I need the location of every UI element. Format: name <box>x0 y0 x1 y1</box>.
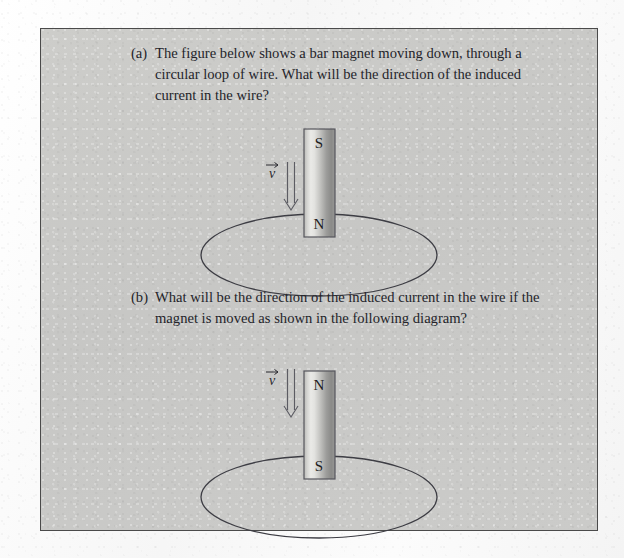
question-b: (b) What will be the direction of the in… <box>131 287 543 329</box>
velocity-symbol-a: v <box>269 166 276 181</box>
figure-panel: (a) The figure below shows a bar magnet … <box>40 28 598 531</box>
question-b-label: (b) <box>131 287 155 308</box>
velocity-label-b: v <box>266 370 278 389</box>
magnet-bottom-pole-a: N <box>314 216 325 232</box>
diagram-a: S N v <box>41 91 599 301</box>
velocity-arrow-a <box>284 162 298 210</box>
velocity-arrow-b <box>284 369 298 417</box>
magnet-bottom-pole-b: S <box>315 458 323 474</box>
magnet-top-pole-a: S <box>315 135 323 151</box>
magnet-top-pole-b: N <box>314 377 325 393</box>
question-b-text: What will be the direction of the induce… <box>155 287 543 329</box>
diagram-b: N S v <box>41 333 599 543</box>
bar-magnet-b: N S <box>304 371 335 479</box>
page-canvas: (a) The figure below shows a bar magnet … <box>0 0 624 558</box>
bar-magnet-a: S N <box>304 129 335 237</box>
velocity-symbol-b: v <box>269 373 276 388</box>
question-a-label: (a) <box>131 43 155 64</box>
velocity-label-a: v <box>266 163 278 182</box>
